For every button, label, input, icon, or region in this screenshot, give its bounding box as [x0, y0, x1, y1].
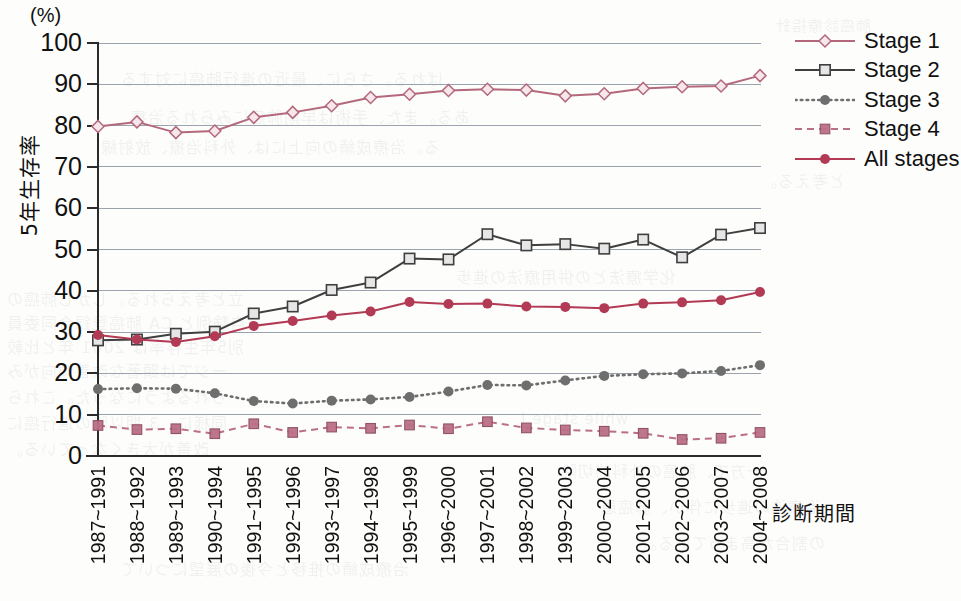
data-point-marker: [327, 311, 337, 321]
data-point-marker: [326, 100, 338, 112]
data-point-marker: [599, 243, 609, 253]
data-point-marker: [820, 95, 830, 105]
data-point-marker: [288, 399, 298, 409]
legend-item-stage-2[interactable]: Stage 2: [795, 56, 959, 86]
data-point-marker: [820, 124, 830, 134]
survival-rate-line-chart: (%) 5年生存率 診断期間 1009080706050403020100 19…: [0, 0, 961, 601]
series-line: [98, 422, 760, 440]
data-point-marker: [327, 396, 337, 406]
data-point-marker: [171, 424, 181, 434]
data-point-marker: [443, 254, 453, 264]
data-point-marker: [443, 387, 453, 397]
data-point-marker: [210, 429, 220, 439]
legend-item-label: Stage 4: [864, 116, 940, 142]
legend-key-icon: [795, 59, 855, 81]
legend-item-label: Stage 1: [864, 28, 940, 54]
series-line: [98, 365, 760, 403]
data-point-marker: [482, 380, 492, 390]
data-point-marker: [249, 419, 259, 429]
legend-key-icon: [795, 30, 855, 52]
data-point-marker: [598, 88, 610, 100]
data-point-marker: [249, 396, 259, 406]
data-point-marker: [442, 84, 454, 96]
legend-item-all-stages[interactable]: All stages: [795, 144, 959, 174]
data-point-marker: [716, 433, 726, 443]
data-point-marker: [677, 435, 687, 445]
data-point-marker: [677, 368, 687, 378]
data-point-marker: [132, 425, 142, 435]
series-stage-3: [93, 360, 765, 408]
legend-item-label: Stage 2: [864, 57, 940, 83]
series-stage-4: [93, 417, 765, 444]
data-point-marker: [599, 371, 609, 381]
data-point-marker: [521, 240, 531, 250]
legend-key-icon: [795, 148, 855, 170]
data-point-marker: [559, 90, 571, 102]
legend-key-icon: [795, 118, 855, 140]
data-point-marker: [132, 335, 142, 345]
series-stage-2: [93, 223, 765, 346]
data-point-marker: [248, 111, 260, 123]
data-point-marker: [170, 127, 182, 139]
data-point-marker: [404, 253, 414, 263]
data-point-marker: [754, 70, 766, 82]
data-point-marker: [327, 422, 337, 432]
data-point-marker: [638, 299, 648, 309]
data-point-marker: [209, 125, 221, 137]
data-point-marker: [676, 81, 688, 93]
data-point-marker: [171, 337, 181, 347]
data-point-marker: [405, 392, 415, 402]
data-point-marker: [521, 380, 531, 390]
legend-item-label: Stage 3: [864, 87, 940, 113]
data-point-marker: [677, 297, 687, 307]
legend-item-stage-4[interactable]: Stage 4: [795, 115, 959, 145]
data-point-marker: [405, 420, 415, 430]
legend-item-stage-3[interactable]: Stage 3: [795, 85, 959, 115]
data-point-marker: [366, 306, 376, 316]
data-point-marker: [288, 428, 298, 438]
data-point-marker: [715, 80, 727, 92]
data-point-marker: [755, 287, 765, 297]
data-point-marker: [755, 360, 765, 370]
data-point-marker: [560, 302, 570, 312]
data-point-marker: [638, 234, 648, 244]
data-point-marker: [365, 92, 377, 104]
data-point-marker: [249, 321, 259, 331]
data-point-marker: [366, 394, 376, 404]
data-point-marker: [677, 252, 687, 262]
data-point-marker: [716, 295, 726, 305]
data-point-marker: [755, 428, 765, 438]
data-point-marker: [560, 375, 570, 385]
data-point-marker: [481, 83, 493, 95]
data-point-marker: [599, 426, 609, 436]
data-point-marker: [820, 154, 830, 164]
series-stage-1: [92, 70, 766, 139]
data-point-marker: [249, 308, 259, 318]
data-point-marker: [755, 223, 765, 233]
chart-legend: Stage 1Stage 2Stage 3Stage 4All stages: [795, 26, 959, 174]
data-point-marker: [171, 384, 181, 394]
series-line: [98, 292, 760, 342]
legend-item-stage-1[interactable]: Stage 1: [795, 26, 959, 56]
legend-item-label: All stages: [864, 146, 959, 172]
data-point-marker: [405, 297, 415, 307]
data-point-marker: [522, 423, 532, 433]
data-point-marker: [482, 229, 492, 239]
data-point-marker: [521, 301, 531, 311]
data-point-marker: [716, 366, 726, 376]
data-point-marker: [365, 277, 375, 287]
data-point-marker: [93, 330, 103, 340]
data-point-marker: [599, 303, 609, 313]
data-point-marker: [819, 35, 831, 47]
data-point-marker: [638, 428, 648, 438]
data-point-marker: [716, 229, 726, 239]
data-point-marker: [560, 239, 570, 249]
series-line: [98, 228, 760, 340]
data-point-marker: [287, 106, 299, 118]
data-point-marker: [288, 301, 298, 311]
data-point-marker: [820, 65, 830, 75]
data-point-marker: [132, 383, 142, 393]
legend-key-icon: [795, 89, 855, 111]
data-point-marker: [404, 88, 416, 100]
data-point-marker: [93, 421, 103, 431]
